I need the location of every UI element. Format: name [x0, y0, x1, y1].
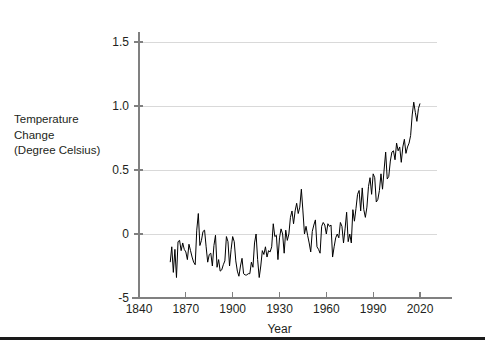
y-tick-label: -5: [86, 291, 129, 305]
x-tick-label: 1870: [172, 302, 199, 316]
y-tick-label: 1.0: [86, 99, 129, 113]
temperature-change-chart: Temperature Change (Degree Celsius) -500…: [0, 0, 485, 353]
y-axis-title: Temperature Change (Degree Celsius): [14, 112, 100, 159]
y-axis-title-line-1: Temperature: [14, 112, 100, 128]
x-tick-label: 2020: [407, 302, 434, 316]
y-tick-label: 0.5: [86, 163, 129, 177]
x-tick-label: 1930: [266, 302, 293, 316]
x-tick-label: 1960: [313, 302, 340, 316]
y-tick-label: 1.5: [86, 35, 129, 49]
x-tick-label: 1990: [360, 302, 387, 316]
axis-lines: [132, 32, 452, 298]
data-series-line: [170, 102, 420, 277]
x-tick-label: 1900: [219, 302, 246, 316]
plot-area: [0, 0, 485, 353]
y-tick-label: 0: [86, 227, 129, 241]
x-axis-title: Year: [267, 322, 291, 336]
bottom-divider-rule: [0, 337, 485, 340]
y-axis-title-line-2: Change: [14, 128, 100, 144]
x-tick-label: 1840: [126, 302, 153, 316]
y-axis-title-line-3: (Degree Celsius): [14, 143, 100, 159]
gridlines: [139, 42, 437, 234]
